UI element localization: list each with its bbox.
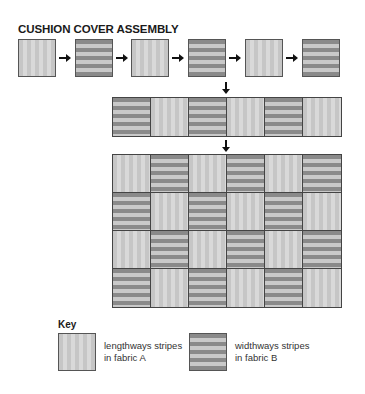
- panel-square-lengthways: [113, 231, 151, 269]
- arrow-right-icon: [286, 54, 298, 62]
- panel-square-lengthways: [227, 193, 265, 231]
- strip-square-lengthways: [151, 98, 189, 136]
- diagram-title: CUSHION COVER ASSEMBLY: [18, 23, 179, 35]
- panel-square-widthways: [189, 193, 227, 231]
- arrow-down-icon: [222, 82, 230, 94]
- key-text-fabric-b: widthways stripes in fabric B: [235, 340, 309, 364]
- key-item-a-line2: in fabric A: [104, 352, 182, 364]
- square-4-widthways: [188, 39, 226, 77]
- strip-square-widthways: [189, 98, 227, 136]
- panel-square-widthways: [227, 231, 265, 269]
- square-3-lengthways: [131, 39, 169, 77]
- square-2-widthways: [75, 39, 113, 77]
- panel-square-widthways: [303, 155, 341, 193]
- key-item-b-line2: in fabric B: [235, 352, 309, 364]
- key-item-b-line1: widthways stripes: [235, 340, 309, 352]
- strip-square-lengthways: [227, 98, 265, 136]
- key-item-a-line1: lengthways stripes: [104, 340, 182, 352]
- square-1-lengthways: [18, 39, 56, 77]
- strip-square-widthways: [265, 98, 303, 136]
- panel-square-widthways: [265, 269, 303, 307]
- panel-square-lengthways: [303, 193, 341, 231]
- panel-square-lengthways: [189, 231, 227, 269]
- arrow-right-icon: [59, 54, 71, 62]
- arrow-right-icon: [172, 54, 184, 62]
- panel-square-lengthways: [265, 231, 303, 269]
- panel-square-widthways: [151, 231, 189, 269]
- square-5-lengthways: [245, 39, 283, 77]
- stage-2-strip: [112, 97, 342, 137]
- panel-square-lengthways: [265, 155, 303, 193]
- arrow-down-icon: [222, 140, 230, 152]
- panel-square-widthways: [113, 193, 151, 231]
- arrow-right-icon: [229, 54, 241, 62]
- panel-square-lengthways: [189, 155, 227, 193]
- panel-square-lengthways: [151, 193, 189, 231]
- panel-square-lengthways: [303, 269, 341, 307]
- key-heading: Key: [58, 319, 76, 330]
- strip-square-widthways: [113, 98, 151, 136]
- strip-square-lengthways: [303, 98, 341, 136]
- key-swatch-lengthways: [58, 333, 96, 371]
- arrow-right-icon: [116, 54, 128, 62]
- panel-square-lengthways: [113, 155, 151, 193]
- panel-square-widthways: [265, 193, 303, 231]
- panel-square-lengthways: [227, 269, 265, 307]
- stage-3-panel: [112, 154, 342, 308]
- key-text-fabric-a: lengthways stripes in fabric A: [104, 340, 182, 364]
- panel-square-widthways: [189, 269, 227, 307]
- key-swatch-widthways: [189, 333, 227, 371]
- panel-square-widthways: [113, 269, 151, 307]
- panel-square-widthways: [303, 231, 341, 269]
- panel-square-lengthways: [151, 269, 189, 307]
- panel-square-widthways: [151, 155, 189, 193]
- square-6-widthways: [302, 39, 340, 77]
- panel-square-widthways: [227, 155, 265, 193]
